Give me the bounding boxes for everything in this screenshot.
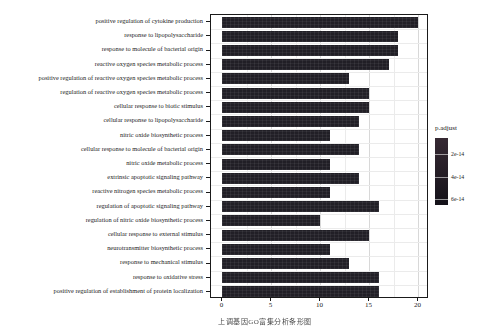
y-axis-label: neurotransmitter biosynthetic process — [0, 241, 203, 255]
y-axis-label: cellular response to lipopolysaccharide — [0, 113, 203, 127]
y-axis-tick — [206, 163, 210, 164]
y-axis-tick — [206, 78, 210, 79]
y-axis-tick — [206, 192, 210, 193]
figure-caption: 上调基因GO富集分析条形图 — [150, 316, 380, 326]
bar — [222, 73, 349, 84]
y-axis-tick — [206, 35, 210, 36]
legend-tick-label: 6e-14 — [451, 196, 464, 202]
y-axis-label: nitric oxide biosynthetic process — [0, 128, 203, 142]
y-axis-tick — [206, 234, 210, 235]
legend-colorbar-tick — [435, 154, 448, 155]
y-axis-tick — [206, 106, 210, 107]
y-axis-label: extrinsic apoptotic signaling pathway — [0, 170, 203, 184]
y-axis-tick — [206, 277, 210, 278]
bar — [222, 159, 330, 170]
legend-colorbar-tick — [435, 199, 448, 200]
bar — [222, 215, 320, 226]
bar — [222, 31, 398, 42]
x-axis-tick-label: 10 — [307, 301, 331, 309]
y-axis-tick — [206, 50, 210, 51]
y-axis-label: positive regulation of establishment of … — [0, 284, 203, 298]
legend-tick-label: 2e-14 — [451, 151, 464, 157]
y-axis-label: response to mechanical stimulus — [0, 255, 203, 269]
y-axis-tick — [206, 121, 210, 122]
bar — [222, 116, 359, 127]
y-axis-label: regulation of reactive oxygen species me… — [0, 85, 203, 99]
bar — [222, 130, 330, 141]
x-axis-tick-label: 15 — [356, 301, 380, 309]
bar — [222, 45, 398, 56]
y-axis-tick — [206, 291, 210, 292]
bar — [222, 173, 359, 184]
y-axis-label: cellular response to molecule of bacteri… — [0, 142, 203, 156]
y-axis-tick — [206, 177, 210, 178]
y-axis-tick — [206, 92, 210, 93]
y-axis-tick — [206, 206, 210, 207]
x-axis-tick-label: 20 — [405, 301, 429, 309]
y-axis-label: nitric oxide metabolic process — [0, 156, 203, 170]
y-axis-label: response to lipopolysaccharide — [0, 28, 203, 42]
y-axis-label: regulation of nitric oxide biosynthetic … — [0, 213, 203, 227]
y-axis-tick — [206, 21, 210, 22]
bar — [222, 17, 418, 28]
y-axis-tick — [206, 149, 210, 150]
y-axis-label: response to oxidative stress — [0, 270, 203, 284]
y-axis-label: positive regulation of cytokine producti… — [0, 14, 203, 28]
y-axis-label: response to molecule of bacterial origin — [0, 42, 203, 56]
bar — [222, 258, 349, 269]
bar — [222, 187, 330, 198]
x-axis-tick-label: 5 — [258, 301, 282, 309]
y-axis-label: positive regulation of reactive oxygen s… — [0, 71, 203, 85]
bar — [222, 272, 379, 283]
y-axis-label: cellular response to biotic stimulus — [0, 99, 203, 113]
bar — [222, 88, 369, 99]
bar — [222, 144, 359, 155]
bar — [222, 59, 389, 70]
bar — [222, 102, 369, 113]
bar — [222, 230, 369, 241]
legend-title: p.adjust — [435, 124, 478, 132]
legend-tick-label: 4e-14 — [451, 174, 464, 180]
y-axis-label: reactive oxygen species metabolic proces… — [0, 57, 203, 71]
y-axis-label: reactive nitrogen species metabolic proc… — [0, 184, 203, 198]
y-axis-label: cellular response to external stimulus — [0, 227, 203, 241]
plot-panel — [210, 14, 428, 298]
legend-padjust: p.adjust 2e-144e-146e-14 — [433, 124, 478, 136]
bar — [222, 286, 379, 297]
y-axis-label: regulation of apoptotic signaling pathwa… — [0, 199, 203, 213]
legend-colorbar — [435, 138, 448, 205]
bar — [222, 244, 330, 255]
bar — [222, 201, 379, 212]
y-axis-tick — [206, 248, 210, 249]
x-axis-tick-label: 0 — [209, 301, 233, 309]
y-axis-tick — [206, 263, 210, 264]
legend-colorbar-tick — [435, 177, 448, 178]
go-enrichment-barplot-figure: positive regulation of cytokine producti… — [0, 0, 478, 330]
y-axis-tick — [206, 64, 210, 65]
y-axis-tick — [206, 135, 210, 136]
y-axis-tick — [206, 220, 210, 221]
